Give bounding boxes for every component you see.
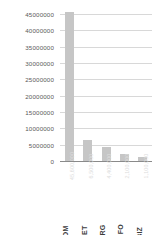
bar-slot: [78, 14, 96, 161]
bar-slot: [97, 14, 115, 161]
x-category-label: .ORG: [99, 225, 106, 235]
plot-area: [60, 14, 152, 162]
y-tick-label: 10000000: [25, 125, 54, 132]
y-tick-label: 40000000: [25, 27, 54, 34]
x-axis-slot: 1,100,000.BIZ: [134, 164, 152, 235]
x-category-label: .INFO: [117, 224, 124, 235]
y-tick-label: 25000000: [25, 76, 54, 83]
bars-layer: [60, 14, 152, 161]
bar-value-label: 6,500,000: [88, 154, 94, 179]
bar-chart: 4500000040000000350000003000000025000000…: [0, 0, 154, 235]
bar-slot: [115, 14, 133, 161]
x-axis-slot: 45,600,000COM: [60, 164, 78, 235]
y-tick-label: 0: [50, 158, 54, 165]
x-axis: 45,600,000COM6,500,000.NET4,400,000.ORG2…: [60, 164, 152, 235]
bar-value-label: 2,100,000: [124, 154, 130, 179]
bar-value-label: 4,400,000: [106, 154, 112, 179]
y-tick-label: 5000000: [29, 141, 54, 148]
bar-value-label: 1,100,000: [143, 154, 149, 179]
x-category-label: .NET: [81, 226, 88, 235]
x-axis-slot: 4,400,000.ORG: [97, 164, 115, 235]
y-tick-label: 30000000: [25, 60, 54, 67]
x-axis-slot: 2,100,000.INFO: [115, 164, 133, 235]
x-axis-slot: 6,500,000.NET: [78, 164, 96, 235]
bar-slot: [134, 14, 152, 161]
bar-value-label: 45,600,000: [69, 152, 75, 180]
y-axis: 4500000040000000350000003000000025000000…: [0, 0, 58, 165]
bar: [65, 12, 74, 161]
x-category-label: COM: [62, 226, 69, 235]
y-tick-label: 45000000: [25, 11, 54, 18]
x-category-label: .BIZ: [136, 227, 143, 235]
bar-slot: [60, 14, 78, 161]
y-tick-label: 20000000: [25, 92, 54, 99]
y-tick-label: 15000000: [25, 109, 54, 116]
y-tick-label: 35000000: [25, 43, 54, 50]
